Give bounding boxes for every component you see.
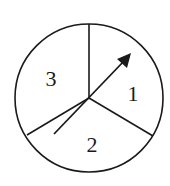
arrow-icon <box>54 53 131 134</box>
spinner-diagram: 1 2 3 <box>0 0 170 186</box>
section-label-2: 2 <box>87 132 98 157</box>
section-label-3: 3 <box>46 66 57 91</box>
section-label-1: 1 <box>128 81 139 106</box>
divider-lower-right <box>89 98 153 136</box>
